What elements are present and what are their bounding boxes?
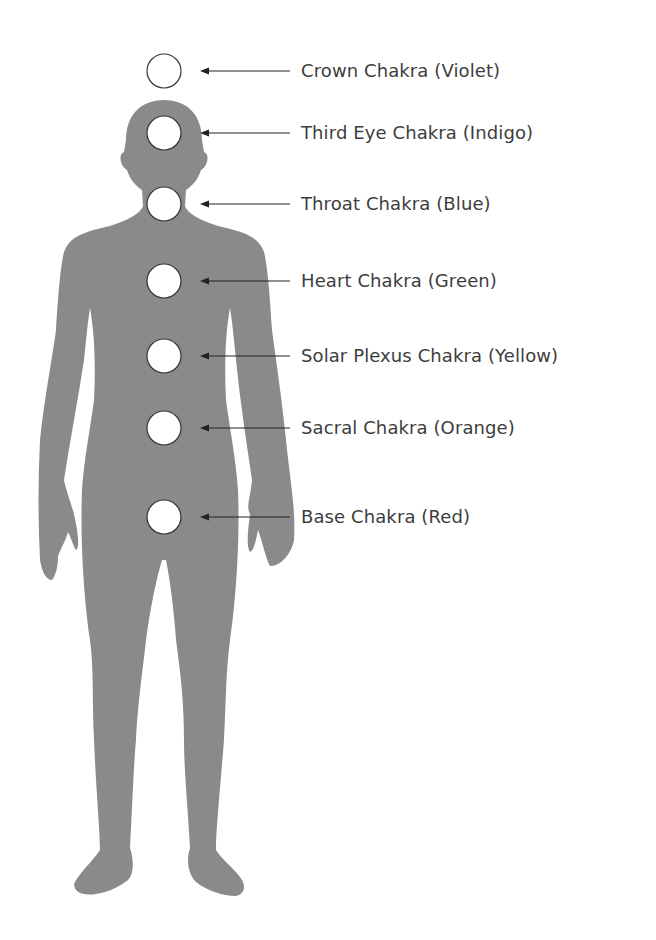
crown-arrow-icon	[200, 68, 290, 75]
sacral-chakra-circle	[147, 411, 181, 445]
third-eye-arrow-icon	[200, 130, 290, 137]
heart-chakra-circle	[147, 264, 181, 298]
base-chakra-label: Base Chakra (Red)	[301, 506, 470, 528]
throat-chakra-circle	[147, 187, 181, 221]
heart-chakra-label: Heart Chakra (Green)	[301, 270, 497, 292]
throat-arrow-icon	[200, 201, 290, 208]
crown-chakra-label: Crown Chakra (Violet)	[301, 60, 500, 82]
base-chakra-circle	[147, 500, 181, 534]
throat-chakra-label: Throat Chakra (Blue)	[301, 193, 491, 215]
solar-plexus-chakra-label: Solar Plexus Chakra (Yellow)	[301, 345, 558, 367]
crown-chakra-circle	[147, 54, 181, 88]
sacral-chakra-label: Sacral Chakra (Orange)	[301, 417, 515, 439]
third-eye-chakra-circle	[147, 116, 181, 150]
solar-plexus-chakra-circle	[147, 339, 181, 373]
third-eye-chakra-label: Third Eye Chakra (Indigo)	[301, 122, 533, 144]
